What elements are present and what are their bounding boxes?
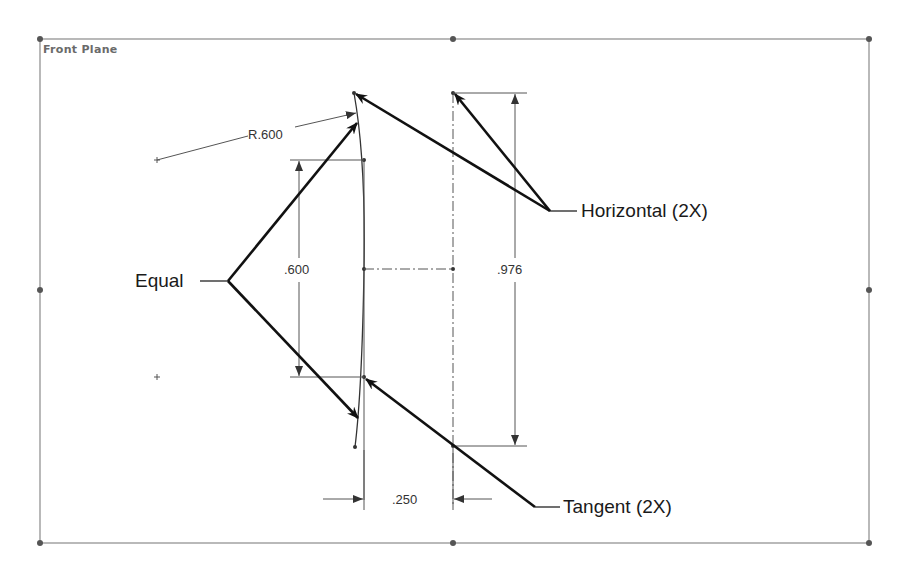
equal-callout-label: Equal [135,270,184,291]
sketch-point[interactable] [154,374,160,380]
frame-mid-handle[interactable] [866,287,872,293]
height-left-dimension-value[interactable]: .600 [284,262,309,277]
width-bottom-dimension-value[interactable]: .250 [392,492,417,507]
radius-dimension-value[interactable]: R.600 [248,127,283,142]
frame-corner-handle[interactable] [866,540,872,546]
frame-corner-handle[interactable] [37,540,43,546]
sketch-canvas[interactable]: Front Plane R.600 .60 [0,0,898,574]
front-plane-frame[interactable] [37,36,872,546]
horizontal-callout-label: Horizontal (2X) [581,200,708,221]
point[interactable] [451,267,455,271]
arc-endpoint[interactable] [353,445,357,449]
plane-label: Front Plane [43,43,118,56]
equal-callout: Equal [135,123,358,418]
tangent-callout-label: Tangent (2X) [563,496,672,517]
frame-mid-handle[interactable] [450,36,456,42]
width-bottom-dimension[interactable]: .250 [323,450,492,510]
horizontal-callout: Horizontal (2X) [356,94,708,221]
frame-mid-handle[interactable] [37,287,43,293]
sketch-geometry[interactable] [154,91,455,505]
height-right-dimension-value[interactable]: .976 [497,262,522,277]
arc-endpoint[interactable] [352,91,356,95]
frame-corner-handle[interactable] [37,36,43,42]
height-left-dimension[interactable]: .600 [284,160,364,377]
radius-dimension[interactable]: R.600 [157,113,356,160]
frame-corner-handle[interactable] [866,36,872,42]
frame-mid-handle[interactable] [450,540,456,546]
height-right-dimension[interactable]: .976 [453,93,527,446]
